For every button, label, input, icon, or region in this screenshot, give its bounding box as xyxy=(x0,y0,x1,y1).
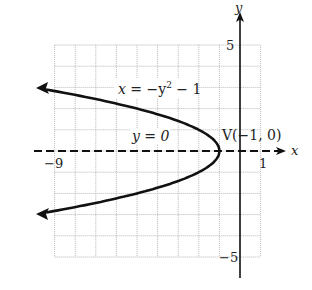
x-axis-label: x xyxy=(291,143,299,158)
vertex-label: V(−1, 0) xyxy=(221,127,281,143)
equation-label: x = −y2 − 1 xyxy=(118,80,201,97)
upper-arrow-icon xyxy=(36,82,49,94)
tick-x-max: 1 xyxy=(259,156,267,171)
tick-x-min: −9 xyxy=(44,156,63,171)
lower-arrow-icon xyxy=(36,208,49,220)
tick-y-min: −5 xyxy=(219,250,238,265)
tick-y-max: 5 xyxy=(226,38,234,53)
y-axis-label: y xyxy=(234,0,243,15)
parabola-graph: x = −y2 − 1 y = 0 V(−1, 0) x y −9 1 5 −5 xyxy=(0,0,312,290)
axis-of-symmetry-label: y = 0 xyxy=(131,128,170,144)
